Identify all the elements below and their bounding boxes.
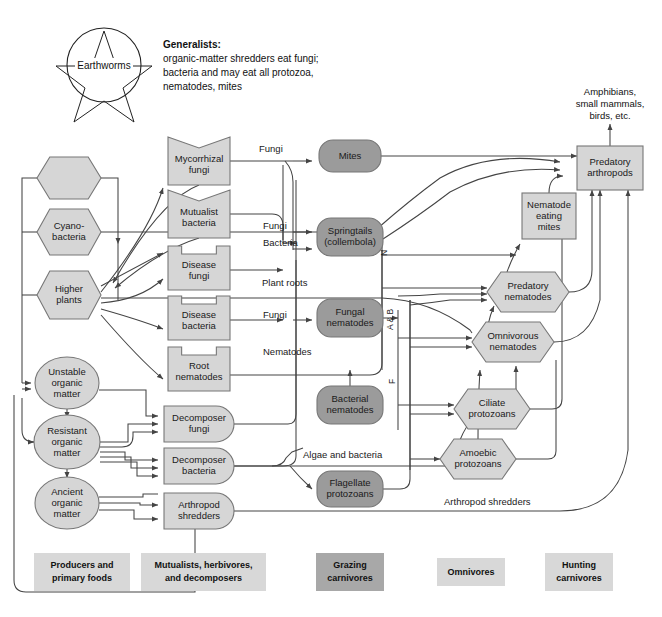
node-label-mycorrhizal_fungi: fungi	[189, 164, 210, 175]
diagram-canvas: Cyano-bacteriaHigherplantsUnstableorgani…	[0, 0, 662, 617]
soil-food-web-diagram: Cyano-bacteriaHigherplantsUnstableorgani…	[0, 0, 662, 617]
earthworms-badge: Earthworms	[56, 28, 152, 122]
node-label-flagellate_protozoans: Flagellate	[329, 477, 370, 488]
node-label-ancient_om: organic	[51, 497, 82, 508]
node-label-mites: Mites	[339, 150, 362, 161]
node-label-disease_fungi: Disease	[182, 259, 216, 270]
legend-swatch-hunting	[545, 553, 613, 591]
node-label-disease_fungi: fungi	[189, 270, 210, 281]
node-label-mycorrhizal_fungi: Mycorrhizal	[175, 153, 224, 164]
legend-layer: Producers andprimary foodsMutualists, he…	[34, 553, 613, 591]
node-label-bacterial_nematodes: Bacterial	[332, 393, 369, 404]
legend-swatch-mutualists	[141, 553, 266, 591]
node-label-higher_plants: Higher	[55, 283, 83, 294]
node-label-nematode_eating_mites: mites	[538, 221, 561, 232]
external-output-text: Amphibians, small mammals, birds, etc.	[576, 86, 645, 121]
edge-label: Arthropod shredders	[444, 496, 531, 507]
node-label-disease_bacteria: bacteria	[182, 320, 217, 331]
node-algae[interactable]	[37, 157, 101, 199]
node-label-fungal_nematodes: Fungal	[335, 306, 364, 317]
edge-label: Nematodes	[263, 346, 312, 357]
node-label-ancient_om: matter	[54, 508, 81, 519]
note-line-2: bacteria and may eat all protozoa,	[163, 67, 314, 78]
node-label-springtails: (collembola)	[324, 236, 376, 247]
node-label-ciliate_protozoans: protozoans	[468, 408, 515, 419]
node-label-ancient_om: Ancient	[51, 486, 83, 497]
edge-label: Bacteria	[263, 237, 299, 248]
note-line-1: organic-matter shredders eat fungi;	[163, 53, 319, 64]
axis-flow-label: F	[387, 379, 397, 384]
node-label-fungal_nematodes: nematodes	[326, 317, 373, 328]
axis-flow-label: A & B	[385, 308, 395, 330]
legend-label-grazing: Grazing	[333, 560, 367, 570]
legend-label-hunting: Hunting	[562, 560, 596, 570]
node-label-amoebic_protozoans: protozoans	[454, 458, 501, 469]
node-label-root_nematodes: nematodes	[175, 371, 222, 382]
node-label-unstable_om: matter	[54, 388, 81, 399]
legend-item-producers: Producers andprimary foods	[34, 553, 130, 591]
node-label-nematode_eating_mites: eating	[536, 210, 562, 221]
node-label-mutualist_bacteria: bacteria	[182, 217, 217, 228]
legend-label-mutualists: Mutualists, herbivores,	[154, 560, 252, 570]
external-line-2: small mammals,	[576, 98, 645, 109]
node-label-flagellate_protozoans: protozoans	[326, 488, 373, 499]
node-label-nematode_eating_mites: Nematode	[527, 199, 571, 210]
node-label-unstable_om: organic	[51, 377, 82, 388]
node-label-mutualist_bacteria: Mutualist	[180, 206, 218, 217]
legend-label-omnivores: Omnivores	[447, 567, 494, 577]
axis-flow-label: N	[379, 250, 389, 256]
legend-label-mutualists-2: and decomposers	[165, 573, 242, 583]
node-label-ciliate_protozoans: Ciliate	[479, 397, 505, 408]
legend-label-grazing-2: carnivores	[327, 573, 373, 583]
node-label-predatory_arthropods: Predatory	[589, 156, 630, 167]
external-line-1: Amphibians,	[584, 86, 636, 97]
node-label-cyanobacteria: bacteria	[52, 231, 87, 242]
node-label-arthropod_shredders: shredders	[178, 510, 220, 521]
node-label-disease_bacteria: Disease	[182, 309, 216, 320]
node-label-decomposer_fungi: fungi	[189, 423, 210, 434]
node-label-resistant_om: Resistant	[47, 425, 87, 436]
node-label-predatory_nematodes: nematodes	[504, 291, 551, 302]
node-layer	[34, 137, 643, 529]
node-label-predatory_nematodes: Predatory	[507, 280, 548, 291]
node-label-springtails: Springtails	[328, 225, 373, 236]
legend-item-hunting: Huntingcarnivores	[545, 553, 613, 591]
node-label-omnivorous_nematodes: Omnivorous	[487, 330, 538, 341]
generalists-note: Generalists: organic-matter shredders ea…	[163, 39, 319, 92]
edge-label: Fungi	[263, 309, 287, 320]
node-label-bacterial_nematodes: nematodes	[326, 404, 373, 415]
external-line-3: birds, etc.	[589, 110, 630, 121]
legend-item-mutualists: Mutualists, herbivores,and decomposers	[141, 553, 266, 591]
edge-label: Fungi	[259, 143, 283, 154]
node-label-predatory_arthropods: arthropods	[587, 167, 633, 178]
node-label-higher_plants: plants	[56, 294, 82, 305]
legend-label-producers: Producers and	[50, 560, 113, 570]
legend-item-omnivores: Omnivores	[437, 558, 505, 586]
node-label-omnivorous_nematodes: nematodes	[489, 341, 536, 352]
node-label-resistant_om: matter	[54, 447, 81, 458]
node-label-arthropod_shredders: Arthropod	[178, 499, 220, 510]
node-label-decomposer_bacteria: Decomposer	[172, 454, 226, 465]
edge-label: Plant roots	[262, 277, 308, 288]
legend-item-grazing: Grazingcarnivores	[316, 553, 384, 591]
node-label-decomposer_bacteria: bacteria	[182, 465, 217, 476]
edge-label: Fungi	[263, 220, 287, 231]
legend-label-producers-2: primary foods	[52, 573, 112, 583]
legend-label-hunting-2: carnivores	[556, 573, 602, 583]
node-shape-algae	[37, 157, 101, 199]
edge-label: Algae and bacteria	[303, 449, 383, 460]
legend-swatch-grazing	[316, 553, 384, 591]
node-label-cyanobacteria: Cyano-	[54, 220, 85, 231]
node-label-decomposer_fungi: Decomposer	[172, 412, 226, 423]
note-heading: Generalists:	[163, 39, 221, 50]
node-label-unstable_om: Unstable	[48, 366, 86, 377]
node-label-amoebic_protozoans: Amoebic	[460, 447, 497, 458]
node-label-resistant_om: organic	[51, 436, 82, 447]
earthworms-label: Earthworms	[77, 60, 130, 71]
legend-swatch-producers	[34, 553, 130, 591]
note-line-3: nematodes, mites	[163, 81, 242, 92]
node-label-root_nematodes: Root	[189, 360, 209, 371]
